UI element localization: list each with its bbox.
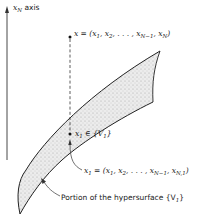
term: , x xyxy=(100,29,109,38)
surface-caption: Portion of the hypersurface {V1} xyxy=(61,193,184,202)
sub: N−1 xyxy=(154,170,167,176)
term: , . . . , x xyxy=(126,166,154,175)
axis-label: xN axis xyxy=(13,3,39,12)
x1-membership-label: x1 ∈ {V1} xyxy=(75,129,112,138)
caption-close: } xyxy=(179,193,184,202)
point-x1 xyxy=(69,133,72,136)
point-x-label: x = (x1, x2, . . . , xN−1, xN) xyxy=(74,29,170,38)
term: = (x xyxy=(92,166,110,175)
term: ) xyxy=(167,29,170,38)
x1-definition-label: x1 = (x1, x2, . . . , xN−1, xN,1) xyxy=(84,166,189,175)
sub: N−1 xyxy=(141,33,154,39)
sub: N,1 xyxy=(176,170,186,176)
caption-text: Portion of the hypersurface {V xyxy=(61,193,176,202)
xn-axis xyxy=(5,6,9,160)
point-x-lhs: x = ( xyxy=(74,29,92,38)
point-x xyxy=(69,36,72,39)
axis-arrow-icon xyxy=(5,6,9,13)
caption-leader-line xyxy=(44,182,60,196)
term: } xyxy=(107,129,112,138)
term: , x xyxy=(167,166,176,175)
term: ) xyxy=(186,166,189,175)
term: , . . . , x xyxy=(112,29,140,38)
term: ∈ {V xyxy=(83,129,104,138)
axis-label-text: axis xyxy=(22,3,39,12)
